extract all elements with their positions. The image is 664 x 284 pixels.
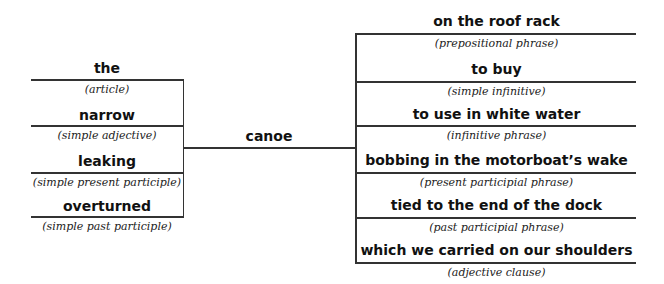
left-label-0: (article)	[31, 83, 183, 96]
right-word-4: tied to the end of the dock	[356, 197, 637, 213]
right-word-0: on the roof rack	[356, 13, 637, 29]
left-label-3: (simple past participle)	[31, 220, 183, 233]
left-line-2	[31, 172, 184, 174]
right-word-5: which we carried on our shoulders	[356, 242, 637, 258]
right-label-1: (simple infinitive)	[356, 85, 637, 98]
left-line-3	[31, 216, 184, 218]
right-line-4	[355, 217, 636, 219]
right-line-1	[355, 81, 636, 83]
right-label-0: (prepositional phrase)	[356, 37, 637, 50]
head-line	[183, 147, 356, 149]
left-word-2: leaking	[31, 153, 183, 169]
right-word-2: to use in white water	[356, 106, 637, 122]
left-line-1	[31, 125, 184, 127]
right-line-3	[355, 172, 636, 174]
left-line-0	[31, 79, 184, 81]
left-word-1: narrow	[31, 107, 183, 123]
head-word: canoe	[183, 128, 355, 144]
left-label-1: (simple adjective)	[31, 129, 183, 142]
right-word-1: to buy	[356, 61, 637, 77]
right-label-4: (past participial phrase)	[356, 221, 637, 234]
left-word-3: overturned	[31, 198, 183, 214]
right-label-2: (infinitive phrase)	[356, 129, 637, 142]
right-line-0	[355, 33, 636, 35]
right-line-5	[355, 262, 636, 264]
left-label-2: (simple present participle)	[31, 176, 183, 189]
right-label-5: (adjective clause)	[356, 266, 637, 279]
right-label-3: (present participial phrase)	[356, 176, 637, 189]
right-word-3: bobbing in the motorboat’s wake	[356, 152, 637, 168]
right-line-2	[355, 125, 636, 127]
left-word-0: the	[31, 60, 183, 76]
